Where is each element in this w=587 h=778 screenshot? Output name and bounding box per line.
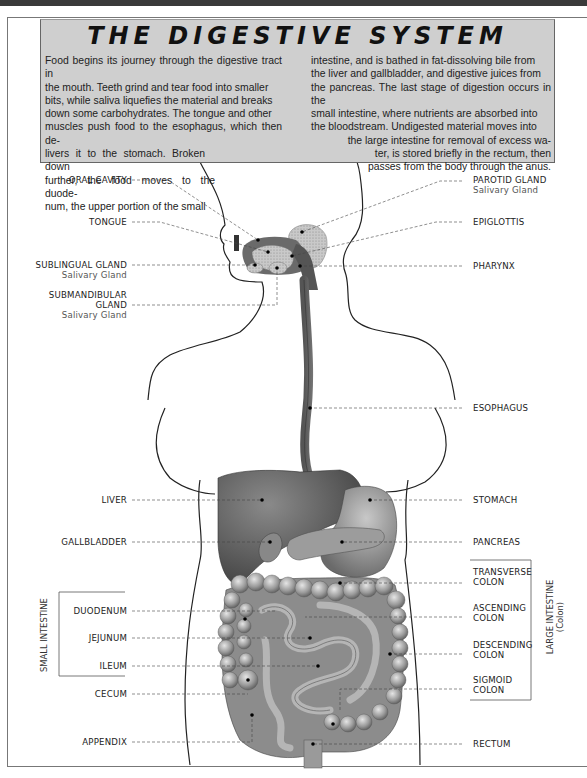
label-oral-cavity: ORAL CAVITY [69,175,127,185]
label-ileum: ILEUM [100,661,127,671]
label-stomach: STOMACH [473,495,517,505]
intro-text-right: intestine, and is bathed in fat-dissolvi… [311,54,551,174]
intro-line: the mouth. Teeth grind and tear food int… [45,81,282,94]
label-cecum: CECUM [95,689,127,699]
intro-line: intestine, and is bathed in fat-dissolvi… [311,54,551,67]
intro-line: livers it to the stomach. Broken down [45,147,205,174]
group-label-large-intestine: LARGE INTESTINE (Colon) [545,562,565,672]
intro-line: bits, while saliva liquefies the materia… [45,94,282,107]
esophagus [304,280,362,502]
label-sublingual-gland: SUBLINGUAL GLANDSalivary Gland [35,260,127,280]
intro-line: muscles push food to the esophagus, whic… [45,120,282,147]
label-epiglottis: EPIGLOTTIS [473,217,524,227]
label-transverse-colon: TRANSVERSECOLON [473,567,532,587]
label-duodenum: DUODENUM [74,606,127,616]
intro-line: ter, is stored briefly in the rectum, th… [311,147,551,160]
intro-text-left: Food begins its journey through the dige… [45,54,282,214]
label-jejunum: JEJUNUM [89,633,127,643]
label-pharynx: PHARYNX [473,261,515,271]
label-parotid-gland: PAROTID GLANDSalivary Gland [473,175,547,195]
intro-line: num, the upper portion of the small [45,200,215,213]
intro-line: the pancreas. The last stage of digestio… [311,81,551,108]
intro-line: down some carbohydrates. The tongue and … [45,107,282,120]
label-submandibular-gland: SUBMANDIBULARGLANDSalivary Gland [49,290,127,320]
label-appendix: APPENDIX [82,737,127,747]
label-liver: LIVER [101,495,127,505]
label-rectum: RECTUM [473,739,511,749]
intro-line: small intestine, where nutrients are abs… [311,107,551,120]
intro-line: the bloodstream. Undigested material mov… [311,120,551,133]
page-title: THE DIGESTIVE SYSTEM [41,22,554,50]
intro-line: passes from the body through the anus. [311,160,551,173]
label-sigmoid-colon: SIGMOIDCOLON [473,675,512,695]
label-pancreas: PANCREAS [473,537,520,547]
intro-line: Food begins its journey through the dige… [45,54,282,81]
intro-panel: THE DIGESTIVE SYSTEM Food begins its jou… [40,19,555,163]
label-esophagus: ESOPHAGUS [473,403,528,413]
intestines [218,573,408,768]
group-label-small-intestine: SMALL INTESTINE [39,598,49,672]
label-descending-colon: DESCENDINGCOLON [473,640,533,660]
label-ascending-colon: ASCENDINGCOLON [473,603,526,623]
intro-line: the liver and gallbladder, and digestive… [311,67,551,80]
label-gallbladder: GALLBLADDER [61,537,127,547]
label-tongue: TONGUE [89,217,127,227]
intro-line: the large intestine for removal of exces… [311,134,551,147]
